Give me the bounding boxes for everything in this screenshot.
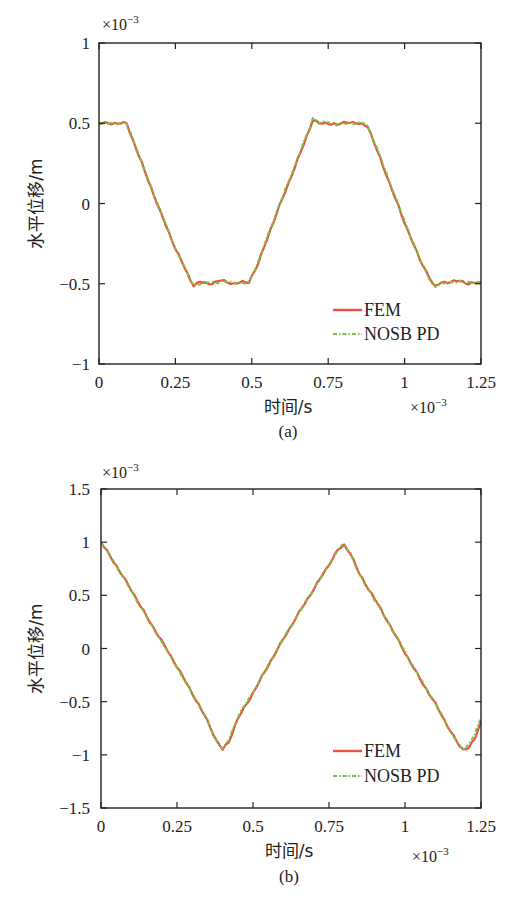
x-tick-label: 0.5 (241, 373, 262, 392)
series-line-nosb-pd (101, 544, 481, 750)
y-tick-label: −0.5 (59, 693, 90, 712)
figure-panel-b: 00.250.50.7511.25−1.5−1−0.500.511.5×10−3… (0, 450, 519, 901)
figure-caption: (b) (279, 867, 299, 886)
y-tick-label: −1 (72, 746, 90, 765)
legend: FEMNOSB PD (333, 300, 440, 344)
y-axis-multiplier: ×10−3 (102, 461, 139, 481)
x-axis-label: 时间/s (264, 397, 313, 417)
x-tick-label: 0.25 (161, 373, 191, 392)
x-tick-label: 0.75 (313, 373, 343, 392)
x-tick-label: 1.25 (466, 373, 496, 392)
y-tick-label: −0.5 (59, 275, 90, 294)
x-axis-label: 时间/s (265, 841, 314, 861)
x-tick-label: 0 (97, 817, 106, 836)
x-tick-label: 1.25 (466, 817, 496, 836)
x-axis-multiplier: ×10−3 (412, 845, 449, 865)
plot-frame (101, 489, 481, 808)
y-tick-label: −1 (72, 355, 90, 374)
y-tick-label: 0 (82, 640, 91, 659)
legend-label-nosb-pd: NOSB PD (364, 324, 440, 344)
y-axis-multiplier: ×10−3 (102, 13, 139, 33)
y-tick-label: 1 (82, 34, 91, 53)
y-tick-label: 0 (82, 195, 91, 214)
y-tick-label: 0.5 (69, 114, 90, 133)
legend-label-fem: FEM (364, 300, 401, 320)
chart-b-svg: 00.250.50.7511.25−1.5−1−0.500.511.5×10−3… (0, 450, 519, 901)
x-tick-label: 1 (400, 373, 409, 392)
y-tick-label: −1.5 (59, 799, 90, 818)
x-axis-multiplier: ×10−3 (410, 396, 447, 416)
figure-panel-a: 00.250.50.7511.25−1−0.500.51×10−3×10−3时间… (0, 0, 519, 450)
x-tick-label: 0 (95, 373, 104, 392)
y-axis-label: 水平位移/m (26, 158, 46, 248)
x-tick-label: 0.75 (314, 817, 344, 836)
chart-a-svg: 00.250.50.7511.25−1−0.500.51×10−3×10−3时间… (0, 0, 519, 450)
y-tick-label: 1 (82, 533, 91, 552)
x-tick-label: 0.5 (242, 817, 263, 836)
legend-label-nosb-pd: NOSB PD (364, 766, 440, 786)
x-tick-label: 0.25 (162, 817, 192, 836)
series-line-fem (101, 542, 481, 750)
y-axis-label: 水平位移/m (26, 603, 46, 693)
legend: FEMNOSB PD (333, 741, 440, 786)
y-tick-label: 0.5 (69, 586, 90, 605)
series-line-fem (99, 120, 481, 286)
figure-caption: (a) (279, 422, 298, 441)
y-tick-label: 1.5 (69, 480, 90, 499)
x-tick-label: 1 (401, 817, 410, 836)
legend-label-fem: FEM (364, 741, 401, 761)
